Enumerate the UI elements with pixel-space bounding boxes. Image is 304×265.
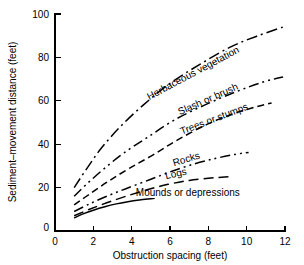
x-tick-label: 4 [129, 236, 135, 247]
y-tick-label: 20 [38, 182, 50, 193]
series-label-mounds-or-depressions: Mounds or depressions [136, 187, 240, 198]
y-tick-label: 40 [38, 139, 50, 150]
x-tick-label: 2 [91, 236, 97, 247]
chart-svg: 024681012020406080100 Herbaceous vegetat… [0, 0, 304, 265]
series-label-layer: Herbaceous vegetationSlash or brushTrees… [136, 44, 250, 198]
y-tick-label: 80 [38, 52, 50, 63]
x-tick-label: 10 [241, 236, 253, 247]
x-tick-label: 6 [167, 236, 173, 247]
x-tick-label: 8 [206, 236, 212, 247]
y-axis-title: Sediment–movement distance (feet) [7, 42, 18, 203]
series-label-rocks: Rocks [171, 150, 201, 169]
x-axis-title: Obstruction spacing (feet) [113, 250, 228, 261]
axis-lines [55, 13, 286, 231]
axis-layer [55, 13, 286, 231]
chart-container: 024681012020406080100 Herbaceous vegetat… [0, 0, 304, 265]
y-tick-label: 60 [38, 95, 50, 106]
series-line-rocks [74, 152, 248, 211]
y-tick-label: 100 [32, 9, 49, 20]
x-tick-label: 12 [279, 236, 291, 247]
series-label-logs: Logs [164, 166, 188, 182]
x-tick-label: 0 [52, 236, 58, 247]
y-tick-label: 0 [43, 222, 49, 233]
series-line-mounds-or-depressions [74, 198, 155, 218]
